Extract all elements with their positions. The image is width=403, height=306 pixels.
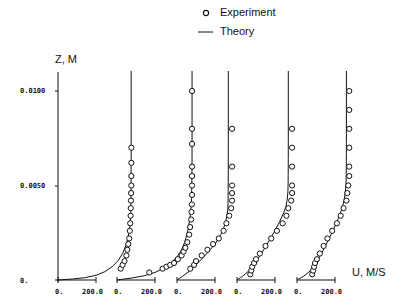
experiment-point: [280, 221, 285, 226]
experiment-point: [128, 221, 133, 226]
experiment-point: [127, 236, 132, 241]
experiment-point: [269, 236, 274, 241]
experiment-point: [189, 126, 194, 131]
experiment-point: [338, 213, 343, 218]
y-tick-0.0050: 0.0050: [20, 182, 45, 190]
experiment-point: [290, 164, 295, 169]
experiment-point: [253, 257, 258, 262]
x-tick-200: 200.0: [82, 288, 103, 296]
experiment-point: [127, 228, 132, 233]
theory-line-profile-1: [58, 71, 131, 280]
experiment-point: [189, 164, 194, 169]
experiment-point: [230, 126, 235, 131]
experiment-point: [230, 164, 235, 169]
experiment-point: [286, 206, 291, 211]
experiment-point: [128, 198, 133, 203]
experiment-point: [347, 164, 352, 169]
experiment-point: [187, 232, 192, 237]
experiment-point: [211, 241, 216, 246]
experiment-point: [129, 145, 134, 150]
experiment-point: [189, 141, 194, 146]
experiment-point: [230, 190, 235, 195]
legend-theory-label: Theory: [220, 25, 254, 37]
experiment-point: [325, 236, 330, 241]
experiment-point: [330, 228, 335, 233]
experiment-point: [284, 213, 289, 218]
experiment-point: [189, 192, 194, 197]
experiment-point: [128, 206, 133, 211]
experiment-point: [345, 190, 350, 195]
y-tick-0: 0.: [20, 277, 28, 285]
experiment-point: [221, 228, 226, 233]
legend-circle-icon: [203, 10, 208, 15]
experiment-point: [347, 145, 352, 150]
experiment-point: [205, 247, 210, 252]
experiment-point: [289, 198, 294, 203]
experiment-point: [224, 221, 229, 226]
experiment-point: [290, 145, 295, 150]
experiment-point: [129, 173, 134, 178]
experiment-point: [189, 183, 194, 188]
experiment-point: [124, 253, 129, 258]
y-axis-label: Z, M: [55, 53, 77, 65]
x-tick-200: 200.0: [141, 288, 162, 296]
experiment-point: [346, 183, 351, 188]
experiment-point: [314, 257, 319, 262]
experiment-point: [317, 251, 322, 256]
x-tick-0: 0.: [55, 288, 63, 296]
x-tick-0: 0.: [174, 288, 182, 296]
experiment-point: [147, 270, 152, 275]
experiment-point: [199, 253, 204, 258]
experiment-point: [125, 247, 130, 252]
experiment-point: [129, 183, 134, 188]
experiment-point: [334, 221, 339, 226]
experiment-point: [274, 228, 279, 233]
y-tick-0.0100: 0.0100: [20, 87, 45, 95]
legend-experiment-label: Experiment: [220, 6, 276, 18]
experiment-point: [129, 190, 134, 195]
experiment-point: [341, 206, 346, 211]
experiment-point: [227, 213, 232, 218]
experiment-point: [193, 259, 198, 264]
experiment-point: [347, 126, 352, 131]
experiment-point: [347, 88, 352, 93]
experiment-point: [290, 126, 295, 131]
experiment-point: [290, 190, 295, 195]
experiment-point: [188, 224, 193, 229]
x-tick-200: 200.0: [201, 288, 222, 296]
experiment-point: [230, 198, 235, 203]
experiment-point: [263, 243, 268, 248]
experiment-point: [189, 217, 194, 222]
theory-line-profile-4: [237, 71, 288, 280]
experiment-point: [290, 183, 295, 188]
x-axis-label: U, M/S: [352, 266, 386, 278]
experiment-point: [189, 209, 194, 214]
experiment-point: [122, 259, 127, 264]
experiment-point: [230, 183, 235, 188]
x-tick-0: 0.: [294, 288, 302, 296]
plot-area: [0, 0, 403, 306]
experiment-point: [344, 198, 349, 203]
experiment-point: [321, 243, 326, 248]
experiment-point: [347, 107, 352, 112]
experiment-point: [126, 241, 131, 246]
experiment-point: [189, 88, 194, 93]
experiment-point: [129, 160, 134, 165]
x-tick-0: 0.: [234, 288, 242, 296]
experiment-point: [183, 245, 188, 250]
experiment-point: [229, 206, 234, 211]
experiment-point: [189, 173, 194, 178]
experiment-point: [347, 173, 352, 178]
experiment-point: [216, 236, 221, 241]
x-tick-200: 200.0: [321, 288, 342, 296]
experiment-point: [257, 251, 262, 256]
x-tick-200: 200.0: [261, 288, 282, 296]
experiment-point: [128, 213, 133, 218]
experiment-point: [185, 240, 190, 245]
theory-line-profile-5: [297, 71, 346, 280]
x-tick-0: 0.: [114, 288, 122, 296]
experiment-point: [189, 202, 194, 207]
